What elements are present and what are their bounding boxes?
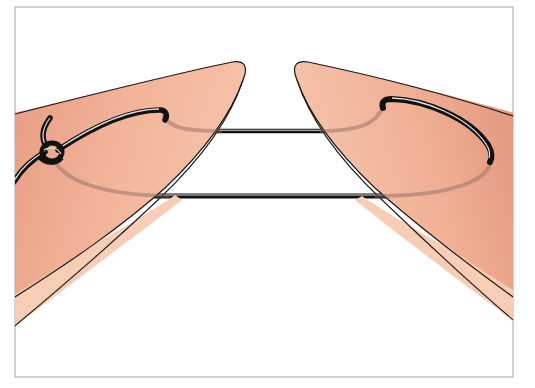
suture-diagram [0, 0, 535, 388]
lower-suture-strand [150, 195, 390, 196]
upper-suture-strand [205, 130, 330, 131]
illustration-canvas: Medical illustration of a suture passing… [0, 0, 535, 388]
